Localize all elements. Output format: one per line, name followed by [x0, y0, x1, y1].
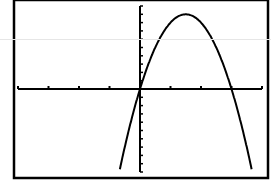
scan-artifact	[0, 39, 271, 40]
graph-screen	[0, 0, 271, 190]
